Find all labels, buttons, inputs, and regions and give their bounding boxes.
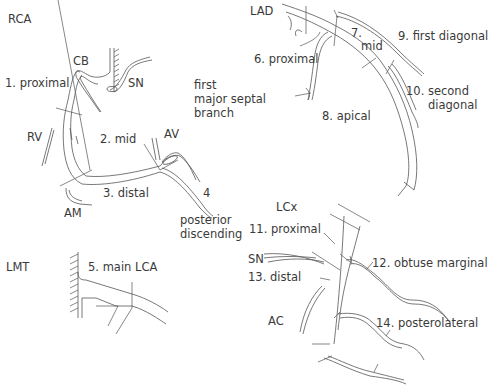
lad-label-apical: 8. apical — [322, 109, 371, 123]
lad-label-septal-line1: first — [194, 78, 216, 92]
lad-label-mid: mid — [361, 39, 383, 53]
lcx-label-posterolateral: 14. posterolateral — [376, 316, 478, 330]
lcx-label-ac: AC — [268, 314, 284, 328]
lad-label-septal-line3: branch — [194, 106, 234, 120]
rca-label-sn: SN — [128, 76, 144, 90]
lad-title: LAD — [250, 4, 273, 18]
rca-label-rv: RV — [27, 130, 42, 144]
rca-label-pd-line2: discending — [180, 227, 242, 241]
lcx-label-distal: 13. distal — [248, 270, 301, 284]
lad-label-second-diagonal-line1: 10. second — [406, 84, 469, 98]
lad-label-mid-number: 7. — [351, 26, 362, 40]
rca-label-pd-number: 4 — [203, 186, 210, 200]
rca-label-am: AM — [64, 206, 82, 220]
lad-label-septal-line2: major septal — [194, 92, 266, 106]
rca-label-cb: CB — [73, 54, 89, 68]
lmt-label-main-lca: 5. main LCA — [88, 260, 157, 274]
rca-title: RCA — [8, 12, 31, 26]
lcx-label-sn: SN — [248, 252, 264, 266]
rca-label-mid: 2. mid — [100, 132, 136, 146]
lad-label-first-diagonal: 9. first diagonal — [398, 29, 488, 43]
lcx-label-proximal: 11. proximal — [249, 222, 321, 236]
rca-label-proximal: 1. proximal — [5, 76, 70, 90]
lmt-title: LMT — [6, 260, 29, 274]
rca-label-pd-line1: posterior — [180, 213, 232, 227]
lad-label-proximal: 6. proximal — [254, 52, 319, 66]
rca-label-distal: 3. distal — [103, 186, 149, 200]
lad-label-second-diagonal-line2: diagonal — [428, 98, 477, 112]
lcx-title: LCx — [276, 200, 297, 214]
rca-label-av: AV — [164, 127, 179, 141]
lcx-label-obtuse-marginal: 12. obtuse marginal — [372, 256, 488, 270]
